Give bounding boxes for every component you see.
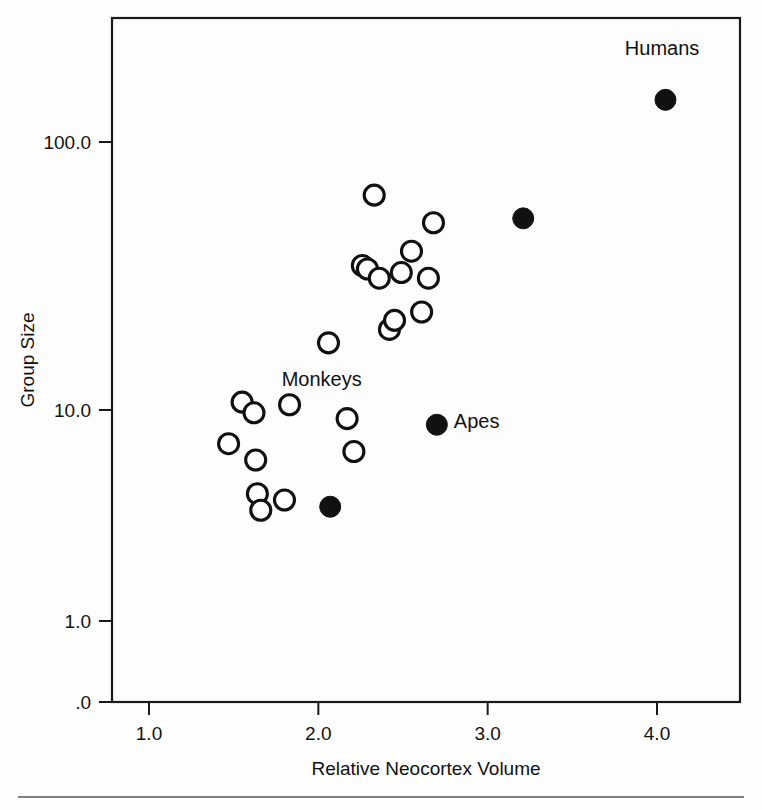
data-point-apes [426,414,447,435]
plot-frame [112,18,740,702]
scatter-plot: 1.02.03.04.0 100.010.01.0.0 HumansApesMo… [0,0,762,810]
x-tick-label: 4.0 [644,723,670,744]
data-point-monkeys [369,268,389,288]
data-point-monkeys [412,302,432,322]
data-point-monkeys [251,500,271,520]
data-point-apes [513,208,534,229]
data-point-monkeys [391,263,411,283]
figure-container: 1.02.03.04.0 100.010.01.0.0 HumansApesMo… [0,0,762,810]
y-tick-label: 100.0 [43,132,91,153]
data-point-monkeys [219,434,239,454]
data-point-humans [655,89,676,110]
y-axis-title: Group Size [17,312,38,407]
data-point-apes [320,496,341,517]
data-point-monkeys [423,213,443,233]
data-point-monkeys [244,403,264,423]
y-tick-label: .0 [75,692,91,713]
data-point-monkeys [318,333,338,353]
data-point-monkeys [385,310,405,330]
x-axis-title: Relative Neocortex Volume [311,758,540,779]
data-point-monkeys [418,268,438,288]
x-tick-label: 1.0 [136,723,162,744]
data-point-monkeys [246,450,266,470]
data-point-monkeys [364,185,384,205]
data-point-monkeys [280,395,300,415]
x-tick-label: 2.0 [305,723,331,744]
data-point-monkeys [274,490,294,510]
annotation-apes: Apes [454,410,500,432]
x-axis-ticks: 1.02.03.04.0 [136,702,670,744]
data-point-monkeys [401,241,421,261]
data-point-monkeys [344,442,364,462]
y-tick-label: 10.0 [54,400,91,421]
y-axis-ticks: 100.010.01.0.0 [43,132,112,713]
data-point-monkeys [337,409,357,429]
y-tick-label: 1.0 [65,611,91,632]
x-tick-label: 3.0 [474,723,500,744]
annotation-humans: Humans [625,37,699,59]
annotation-monkeys: Monkeys [282,368,362,390]
